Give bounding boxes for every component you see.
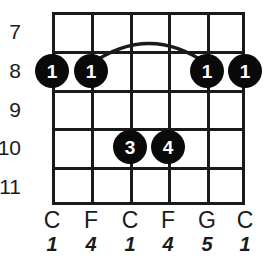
finger-dot-label: 1 xyxy=(202,62,213,81)
interval-label-string1: 1 xyxy=(30,234,74,254)
fret-line-top xyxy=(52,12,245,15)
note-label-string6: C xyxy=(223,209,267,232)
fret-line-bottom xyxy=(52,202,245,205)
finger-dot-label: 4 xyxy=(163,138,174,157)
fret-number-9: 9 xyxy=(0,99,21,120)
string-line-6 xyxy=(242,12,245,205)
fret-number-8: 8 xyxy=(0,60,21,81)
string-line-1 xyxy=(52,12,55,205)
finger-dot-label: 1 xyxy=(240,62,251,81)
finger-dot-label: 1 xyxy=(47,62,58,81)
string-line-3 xyxy=(130,12,133,205)
interval-label-string2: 4 xyxy=(69,234,113,254)
finger-dot-label: 3 xyxy=(125,138,136,157)
fretboard-grid xyxy=(52,12,245,205)
fret-line-1 xyxy=(52,51,245,54)
chord-diagram: 7 8 9 10 11 1 1 3 4 1 1 C F C xyxy=(0,0,269,269)
finger-dot-string6-fret8[interactable]: 1 xyxy=(228,54,262,88)
fret-line-2 xyxy=(52,90,245,93)
finger-dot-string3-fret10[interactable]: 3 xyxy=(113,130,147,164)
interval-label-string4: 4 xyxy=(146,234,190,254)
interval-label-string6: 1 xyxy=(223,234,267,254)
finger-dot-string2-fret8[interactable]: 1 xyxy=(74,54,108,88)
note-label-string1: C xyxy=(30,209,74,232)
finger-dot-string4-fret10[interactable]: 4 xyxy=(151,130,185,164)
string-line-5 xyxy=(207,12,210,205)
note-label-string4: F xyxy=(146,209,190,232)
finger-dot-label: 1 xyxy=(86,62,97,81)
fret-number-7: 7 xyxy=(0,21,21,42)
finger-dot-string5-fret8[interactable]: 1 xyxy=(190,54,224,88)
note-label-string2: F xyxy=(69,209,113,232)
fret-number-11: 11 xyxy=(0,176,21,197)
finger-dot-string1-fret8[interactable]: 1 xyxy=(35,54,69,88)
fret-number-10: 10 xyxy=(0,137,21,158)
fret-line-4 xyxy=(52,167,245,170)
string-line-2 xyxy=(91,12,94,205)
string-line-4 xyxy=(168,12,171,205)
fret-line-3 xyxy=(52,128,245,131)
